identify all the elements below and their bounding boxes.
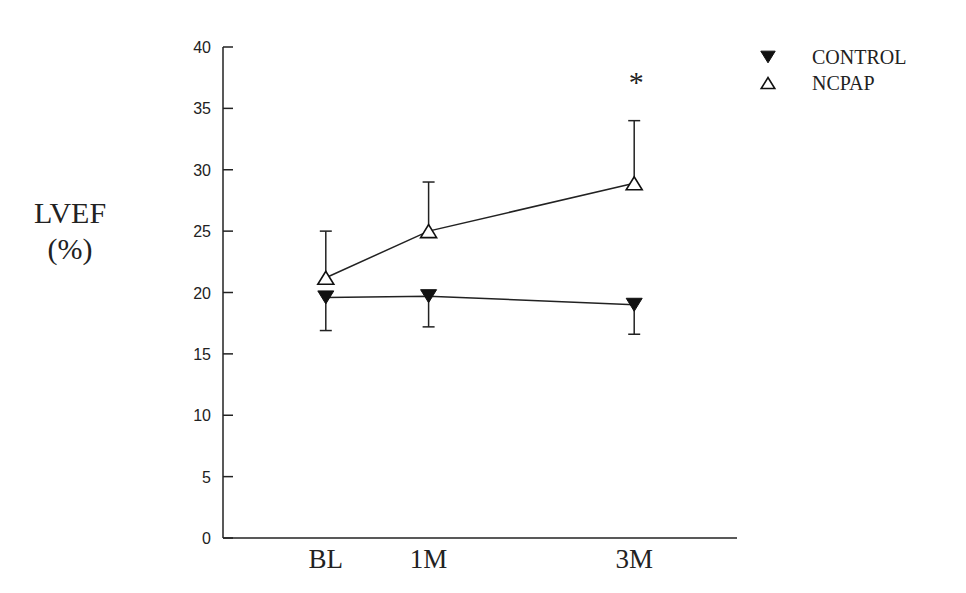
y-tick-label: 20 [193, 285, 211, 302]
y-tick-label: 5 [202, 469, 211, 486]
legend: CONTROLNCPAP [761, 46, 907, 94]
series-line [326, 296, 634, 305]
open-up-triangle-icon [318, 271, 334, 284]
y-tick-label: 40 [193, 39, 211, 56]
x-category-label: BL [309, 544, 344, 574]
y-axis-label-line: LVEF [34, 196, 106, 229]
open-up-triangle-icon [421, 225, 437, 238]
y-tick-label: 25 [193, 223, 211, 240]
annotations: * [629, 65, 644, 98]
significance-asterisk: * [629, 65, 644, 98]
legend-label: CONTROL [812, 46, 906, 68]
x-category-label: 3M [615, 544, 653, 574]
series-control [318, 290, 642, 335]
y-tick-label: 0 [202, 530, 211, 547]
open-up-triangle-icon [761, 77, 775, 88]
open-up-triangle-icon [626, 177, 642, 190]
x-category-label: 1M [410, 544, 448, 574]
y-tick-label: 15 [193, 346, 211, 363]
lvef-chart: LVEF(%) 0510152025303540 BL1M3M * CONTRO… [0, 0, 966, 593]
x-axis-categories: BL1M3M [309, 544, 653, 574]
axes [223, 47, 737, 538]
legend-item-control: CONTROL [761, 46, 907, 68]
series-line [326, 183, 634, 278]
data-series [318, 121, 642, 335]
y-axis-label: LVEF(%) [34, 196, 106, 266]
y-axis-label-line: (%) [48, 232, 93, 266]
y-axis-ticks: 0510152025303540 [193, 39, 233, 547]
legend-item-ncpap: NCPAP [761, 72, 874, 94]
y-tick-label: 35 [193, 100, 211, 117]
y-tick-label: 30 [193, 162, 211, 179]
y-tick-label: 10 [193, 407, 211, 424]
series-ncpap [318, 121, 642, 285]
legend-label: NCPAP [812, 72, 875, 94]
filled-down-triangle-icon [761, 51, 775, 63]
